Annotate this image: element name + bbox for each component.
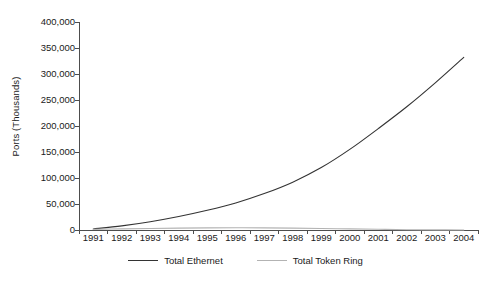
x-axis-tick-labels: 1991199219931994199519961997199819992000… [0, 232, 491, 248]
x-axis-tick-label: 1997 [254, 232, 275, 244]
x-axis-tick-label: 2004 [453, 232, 474, 244]
legend-item[interactable]: Total Ethernet [128, 255, 223, 266]
series-line-total-ethernet [93, 57, 464, 229]
x-axis-tick-label: 2001 [368, 232, 389, 244]
x-axis-tick-label: 1999 [311, 232, 332, 244]
x-axis-tick-label: 2003 [425, 232, 446, 244]
x-axis-tick-label: 2002 [396, 232, 417, 244]
x-axis-tick-label: 2000 [339, 232, 360, 244]
legend-label: Total Ethernet [164, 255, 223, 266]
legend-line-swatch [257, 260, 287, 261]
x-axis-tick-label: 1995 [197, 232, 218, 244]
x-axis-tick-label: 1994 [168, 232, 189, 244]
legend-label: Total Token Ring [293, 255, 363, 266]
x-axis-tick-label: 1993 [140, 232, 161, 244]
x-axis-tick-label: 1996 [225, 232, 246, 244]
line-chart: Ports (Thousands) 050,000100,000150,0002… [0, 0, 491, 281]
legend-line-swatch [128, 260, 158, 261]
chart-legend: Total EthernetTotal Token Ring [0, 255, 491, 266]
legend-item[interactable]: Total Token Ring [257, 255, 363, 266]
x-axis-tick-label: 1992 [111, 232, 132, 244]
x-axis-tick-label: 1998 [282, 232, 303, 244]
x-axis-tick-label: 1991 [83, 232, 104, 244]
